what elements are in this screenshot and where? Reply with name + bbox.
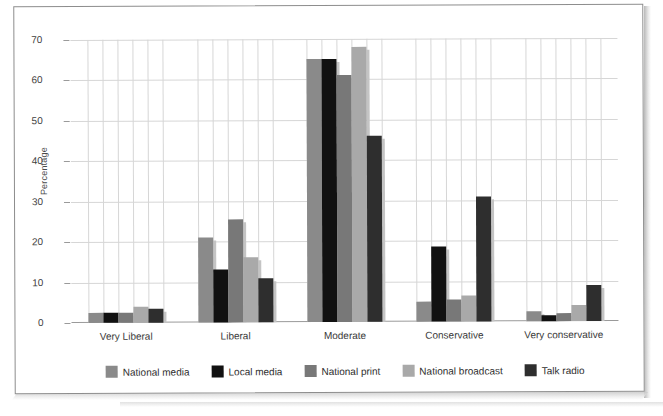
y-axis-tick-mark: [63, 40, 69, 41]
y-axis-tick-mark: [64, 80, 70, 81]
legend-color-swatch: [402, 365, 414, 377]
bar: [556, 313, 571, 321]
y-axis-tick-mark: [64, 242, 70, 243]
bar: [149, 308, 164, 322]
y-axis-tick-mark: [64, 121, 70, 122]
legend-color-swatch: [211, 365, 223, 377]
y-axis-tick-label: 60: [3, 75, 43, 86]
bar: [321, 59, 337, 322]
x-axis-tick-label: Very Liberal: [100, 331, 153, 342]
legend-item-label: Talk radio: [542, 365, 585, 376]
bar-shadow: [491, 199, 494, 321]
legend-item-label: Local media: [228, 366, 282, 377]
bar: [228, 219, 243, 322]
y-axis-tick-mark: [64, 202, 70, 203]
legend-color-swatch: [106, 366, 118, 378]
bar: [243, 258, 258, 323]
y-axis-tick-mark: [64, 161, 70, 162]
chart-figure: Percentage 010203040506070 Very LiberalL…: [13, 4, 644, 394]
bar: [306, 59, 322, 322]
legend-item-label: National broadcast: [419, 365, 502, 376]
legend-color-swatch: [525, 364, 537, 376]
y-axis-tick-label: 20: [3, 236, 43, 247]
bar: [367, 136, 383, 322]
bar: [351, 47, 367, 322]
bar: [119, 313, 134, 323]
bar: [432, 247, 447, 322]
bar: [462, 295, 477, 321]
x-axis-tick-label: Conservative: [425, 329, 483, 340]
y-axis-tick-label: 50: [3, 115, 43, 126]
bar: [198, 238, 213, 323]
legend-item-label: National media: [123, 366, 190, 377]
bar-shadow: [601, 288, 604, 321]
x-axis-tick-label: Liberal: [221, 330, 251, 341]
bar: [541, 315, 556, 321]
bar: [447, 299, 462, 321]
y-axis-ticks: 010203040506070: [13, 4, 643, 6]
x-axis-ticks: Very LiberalLiberalModerateConservativeV…: [13, 4, 643, 6]
bar-series-layer: [70, 38, 618, 323]
bar: [213, 270, 228, 323]
bar: [526, 311, 541, 321]
y-axis-tick-label: 10: [3, 277, 43, 288]
bar-shadow: [273, 281, 276, 322]
legend-item: National print: [304, 365, 380, 377]
bar: [571, 305, 586, 321]
bar: [476, 196, 491, 321]
scanned-page: Percentage 010203040506070 Very LiberalL…: [0, 0, 663, 416]
y-axis-tick-label: 0: [3, 317, 43, 328]
y-axis-tick-label: 70: [2, 34, 42, 45]
legend-color-swatch: [304, 365, 316, 377]
bar: [417, 301, 432, 321]
legend-item: Local media: [211, 365, 282, 377]
x-axis-tick-label: Very conservative: [524, 329, 603, 340]
bar: [104, 313, 119, 323]
bar-shadow: [164, 311, 167, 322]
bar: [134, 307, 149, 323]
page-shadow-bottom-secondary: [120, 402, 663, 407]
bar: [586, 285, 601, 321]
y-axis-tick-label: 40: [3, 155, 43, 166]
y-axis-tick-mark: [64, 323, 70, 324]
legend-item: National broadcast: [402, 364, 502, 376]
bar: [89, 313, 104, 323]
bar: [337, 75, 353, 322]
legend-item-label: National print: [321, 365, 380, 376]
x-axis-tick-label: Moderate: [324, 330, 366, 341]
legend-item: National media: [106, 366, 190, 378]
y-axis-title: Percentage: [39, 111, 49, 231]
page-shadow-right: [644, 6, 651, 398]
y-axis-tick-mark: [64, 283, 70, 284]
chart-legend: National mediaLocal mediaNational printN…: [72, 359, 619, 383]
bar: [258, 278, 273, 323]
y-axis-tick-label: 30: [3, 196, 43, 207]
legend-item: Talk radio: [525, 364, 585, 376]
